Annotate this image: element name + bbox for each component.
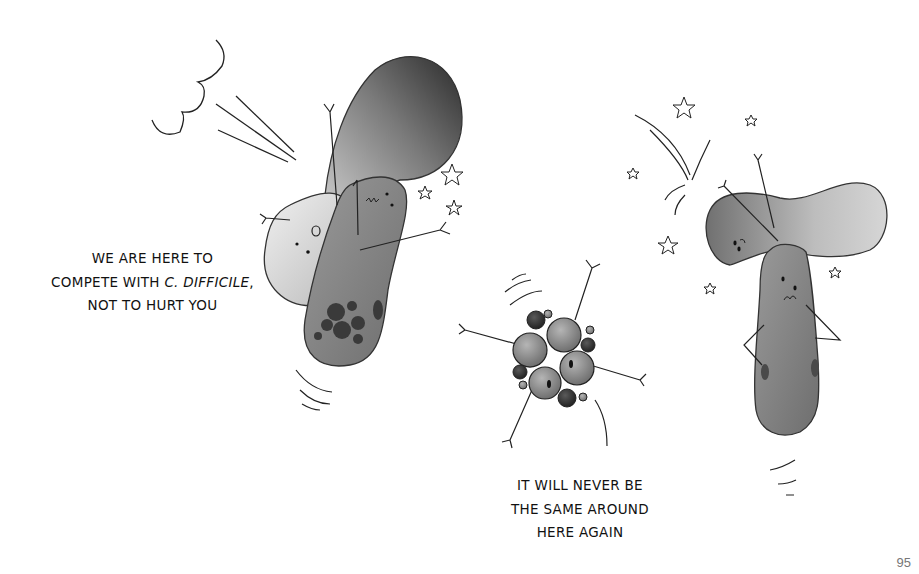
caption-left-line3: not to hurt you	[30, 294, 275, 318]
caption-bottom-line2: the same around	[495, 498, 665, 522]
spore-cluster	[459, 260, 646, 448]
caption-left-line2-suffix: ,	[249, 274, 254, 290]
caption-left-species: C. difficile	[164, 274, 249, 290]
motion-lines	[296, 370, 332, 410]
puff-cloud-icon	[152, 40, 296, 162]
caption-left-line2-prefix: compete with	[51, 274, 164, 290]
caption-left-line1: We are here to	[30, 247, 275, 271]
dazed-bacteria	[627, 97, 887, 495]
caption-left-line2: compete with C. difficile,	[30, 271, 275, 295]
caption-left: We are here to compete with C. difficile…	[30, 247, 275, 318]
page-number: 95	[897, 555, 911, 570]
caption-bottom: It will never be the same around here ag…	[495, 474, 665, 545]
caption-bottom-line1: It will never be	[495, 474, 665, 498]
caption-bottom-line3: here again	[495, 521, 665, 545]
